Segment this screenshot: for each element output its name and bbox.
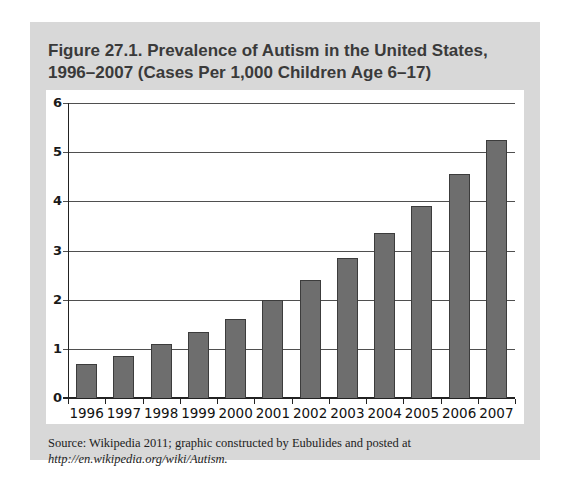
bar	[151, 344, 172, 398]
x-axis-tick	[515, 399, 516, 404]
x-axis-tick	[366, 399, 367, 404]
x-axis-tick	[292, 399, 293, 404]
gridline	[63, 349, 515, 350]
bar	[262, 300, 283, 398]
x-axis-label: 1999	[178, 405, 219, 421]
x-axis-tick	[403, 399, 404, 404]
gridline	[63, 152, 515, 153]
x-axis-label: 2000	[215, 405, 256, 421]
gridline	[63, 251, 515, 252]
y-axis-line	[68, 103, 69, 399]
gridline	[63, 201, 515, 202]
x-axis-tick	[68, 399, 69, 404]
x-axis-label: 1996	[66, 405, 107, 421]
x-axis-tick	[105, 399, 106, 404]
x-axis-tick	[180, 399, 181, 404]
bar	[113, 356, 134, 398]
bar	[225, 319, 246, 398]
bar	[449, 174, 470, 398]
bar-chart-plot: 0123456199619971998199920002001200220032…	[68, 103, 515, 398]
chart-area: 0123456199619971998199920002001200220032…	[46, 90, 524, 424]
x-axis-tick	[441, 399, 442, 404]
figure-panel: Figure 27.1. Prevalence of Autism in the…	[30, 22, 540, 460]
x-axis-tick	[329, 399, 330, 404]
gridline	[63, 103, 515, 104]
y-axis-label: 6	[42, 95, 62, 111]
bar	[300, 280, 321, 398]
source-caption-text: Source: Wikipedia 2011; graphic construc…	[48, 436, 411, 450]
x-axis-label: 2004	[364, 405, 405, 421]
y-axis-label: 1	[42, 341, 62, 357]
y-axis-label: 2	[42, 292, 62, 308]
y-axis-label: 0	[42, 390, 62, 406]
page: Figure 27.1. Prevalence of Autism in the…	[0, 0, 569, 483]
y-axis-label: 3	[42, 243, 62, 259]
bar	[411, 206, 432, 398]
figure-title: Figure 27.1. Prevalence of Autism in the…	[48, 40, 526, 85]
x-axis-tick	[478, 399, 479, 404]
bar	[188, 332, 209, 398]
source-caption: Source: Wikipedia 2011; graphic construc…	[48, 436, 534, 467]
y-axis-label: 4	[42, 193, 62, 209]
x-axis-label: 2005	[401, 405, 442, 421]
bar	[374, 233, 395, 398]
x-axis-label: 1997	[103, 405, 144, 421]
x-axis-tick	[143, 399, 144, 404]
x-axis-label: 2002	[290, 405, 331, 421]
x-axis-tick	[254, 399, 255, 404]
x-axis-label: 2006	[439, 405, 480, 421]
y-axis-label: 5	[42, 144, 62, 160]
gridline	[63, 300, 515, 301]
x-axis-tick	[217, 399, 218, 404]
bar	[337, 258, 358, 398]
bar	[486, 140, 507, 398]
x-axis-label: 1998	[141, 405, 182, 421]
source-url-text: http://en.wikipedia.org/wiki/Autism.	[48, 452, 228, 466]
bar	[76, 364, 97, 398]
x-axis-label: 2001	[252, 405, 293, 421]
x-axis-label: 2003	[327, 405, 368, 421]
x-axis-label: 2007	[476, 405, 517, 421]
